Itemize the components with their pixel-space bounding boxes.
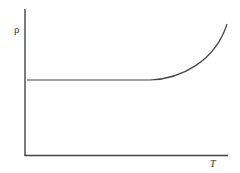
y-axis-label: ρ — [14, 23, 20, 35]
resistivity-curve — [27, 24, 227, 80]
plot: ρ T — [0, 0, 240, 173]
x-axis-label: T — [210, 158, 217, 169]
